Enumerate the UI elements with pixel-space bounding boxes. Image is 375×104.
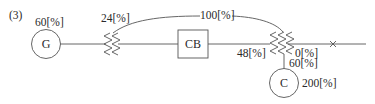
loop-arc-right [232,16,283,32]
right-transformer-tertiary-value: 60[%] [289,58,318,70]
figure-label: (3) [9,10,22,22]
right-transformer-icon [270,32,294,54]
left-transformer-value: 24[%] [101,13,130,25]
condenser-value: 200[%] [302,78,337,90]
generator-value: 60[%] [35,17,64,29]
condenser-symbol: C [278,77,290,89]
circuit-breaker-symbol: CB [178,38,208,50]
power-system-diagram: (3) 60[%] G 24[%] 100[%] CB 48[%] 0[%] 6… [0,0,375,104]
loop-value: 100[%] [200,10,235,22]
left-transformer-icon [104,33,120,55]
generator-symbol: G [40,38,52,50]
right-transformer-primary-value: 48[%] [237,48,266,60]
